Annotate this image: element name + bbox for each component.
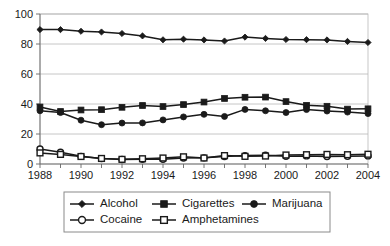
chart-legend: AlcoholCigarettesMarijuanaCocaineAmpheta… bbox=[64, 192, 330, 232]
marker-open-square bbox=[345, 152, 351, 158]
marker-circle bbox=[140, 120, 146, 126]
x-tick-label-1996: 1996 bbox=[192, 169, 216, 181]
marker-circle bbox=[283, 110, 289, 116]
marker-square bbox=[263, 94, 269, 100]
marker-open-square bbox=[161, 217, 168, 224]
marker-open-square bbox=[119, 156, 125, 162]
x-tick-label-1992: 1992 bbox=[110, 169, 134, 181]
marker-circle bbox=[78, 117, 84, 123]
marker-open-square bbox=[99, 156, 105, 162]
x-tick-label-2002: 2002 bbox=[315, 169, 339, 181]
marker-circle bbox=[242, 106, 248, 112]
marker-square bbox=[242, 94, 248, 100]
marker-circle bbox=[119, 120, 125, 126]
legend-label-marijuana: Marijuana bbox=[272, 197, 323, 209]
legend-label-cigarettes: Cigarettes bbox=[182, 197, 235, 209]
marker-circle bbox=[201, 111, 207, 117]
marker-open-square bbox=[181, 154, 187, 160]
marker-circle bbox=[304, 107, 310, 113]
marker-square bbox=[222, 96, 228, 102]
marker-square bbox=[283, 99, 289, 105]
marker-square bbox=[99, 107, 105, 113]
y-tick-label-80: 80 bbox=[21, 38, 33, 50]
marker-circle bbox=[37, 108, 43, 114]
y-tick-label-40: 40 bbox=[21, 98, 33, 110]
x-tick-label-1994: 1994 bbox=[151, 169, 175, 181]
marker-circle bbox=[58, 110, 64, 116]
drug-use-trend-chart: 020406080100 198819901992199419961998200… bbox=[0, 0, 390, 246]
marker-open-circle bbox=[79, 217, 86, 224]
legend-label-cocaine: Cocaine bbox=[100, 213, 142, 225]
x-tick-label-2000: 2000 bbox=[274, 169, 298, 181]
marker-square bbox=[181, 102, 187, 108]
marker-open-square bbox=[283, 152, 289, 158]
chart-canvas: 020406080100 198819901992199419961998200… bbox=[0, 0, 390, 246]
x-axis: 198819901992199419961998200020022004 bbox=[28, 164, 380, 181]
marker-circle bbox=[263, 108, 269, 114]
marker-circle bbox=[160, 117, 166, 123]
marker-circle bbox=[99, 122, 105, 128]
marker-square bbox=[161, 201, 168, 208]
marker-open-square bbox=[304, 152, 310, 158]
marker-square bbox=[140, 103, 146, 109]
y-tick-label-100: 100 bbox=[15, 8, 33, 20]
marker-circle bbox=[365, 111, 371, 117]
marker-circle bbox=[345, 109, 351, 115]
marker-open-square bbox=[78, 154, 84, 160]
x-tick-label-2004: 2004 bbox=[356, 169, 380, 181]
marker-open-square bbox=[160, 155, 166, 161]
x-tick-label-1990: 1990 bbox=[69, 169, 93, 181]
y-axis: 020406080100 bbox=[15, 8, 40, 170]
marker-square bbox=[119, 104, 125, 110]
marker-square bbox=[160, 104, 166, 110]
y-tick-label-60: 60 bbox=[21, 68, 33, 80]
marker-open-square bbox=[58, 152, 64, 158]
marker-open-square bbox=[263, 153, 269, 159]
marker-open-square bbox=[140, 156, 146, 162]
marker-square bbox=[201, 99, 207, 105]
marker-circle bbox=[324, 108, 330, 114]
marker-open-square bbox=[222, 153, 228, 159]
marker-circle bbox=[251, 201, 258, 208]
marker-open-square bbox=[324, 152, 330, 158]
legend-label-alcohol: Alcohol bbox=[100, 197, 138, 209]
marker-open-square bbox=[201, 155, 207, 161]
x-tick-label-1998: 1998 bbox=[233, 169, 257, 181]
legend-label-amphetamines: Amphetamines bbox=[182, 213, 259, 225]
y-tick-label-20: 20 bbox=[21, 128, 33, 140]
marker-open-square bbox=[365, 151, 371, 157]
marker-open-square bbox=[242, 153, 248, 159]
marker-open-square bbox=[37, 150, 43, 156]
marker-square bbox=[78, 107, 84, 113]
marker-circle bbox=[222, 113, 228, 119]
marker-circle bbox=[181, 114, 187, 120]
x-tick-label-1988: 1988 bbox=[28, 169, 52, 181]
